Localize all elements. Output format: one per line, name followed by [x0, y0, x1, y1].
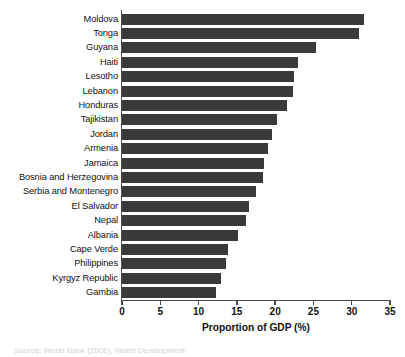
bar-row: [122, 214, 390, 228]
bar: [122, 258, 226, 269]
x-axis-tick-label: 10: [187, 306, 211, 318]
bar-row: [122, 156, 390, 170]
bar: [122, 172, 263, 183]
x-axis-tick-label: 30: [340, 306, 364, 318]
bar-row: [122, 185, 390, 199]
category-label: Lesotho: [0, 71, 118, 82]
x-axis-tick-label: 5: [148, 306, 172, 318]
category-label: Jamaica: [0, 158, 118, 169]
bar-row: [122, 127, 390, 141]
bar: [122, 86, 293, 97]
category-label: Albania: [0, 230, 118, 241]
x-axis-tick-label: 15: [225, 306, 249, 318]
category-label: Haiti: [0, 57, 118, 68]
x-axis-tick: [351, 301, 352, 305]
bar-row: [122, 12, 390, 26]
bar-row: [122, 170, 390, 184]
x-axis-tick: [160, 301, 161, 305]
category-label: Nepal: [0, 215, 118, 226]
category-label: Moldova: [0, 14, 118, 25]
bar: [122, 273, 221, 284]
x-axis-tick: [236, 301, 237, 305]
bar: [122, 42, 316, 53]
bar: [122, 143, 268, 154]
category-label: Kyrgyz Republic: [0, 273, 118, 284]
bar-row: [122, 55, 390, 69]
bar-row: [122, 142, 390, 156]
x-axis-title: Proportion of GDP (%): [122, 322, 390, 333]
bar-chart-figure: MoldovaTongaGuyanaHaitiLesothoLebanonHon…: [0, 0, 405, 357]
bar: [122, 201, 249, 212]
plot-area: [122, 12, 390, 300]
bar-row: [122, 271, 390, 285]
bar-row: [122, 70, 390, 84]
bar: [122, 158, 264, 169]
bar: [122, 28, 359, 39]
category-label: Honduras: [0, 100, 118, 111]
x-axis-tick: [313, 301, 314, 305]
y-axis-line: [121, 10, 122, 302]
bar: [122, 244, 228, 255]
category-label: Lebanon: [0, 86, 118, 97]
bar: [122, 114, 277, 125]
x-axis-tick: [121, 301, 122, 305]
source-caption: Source: World Bank (2006), World Develop…: [14, 346, 354, 357]
x-axis-tick: [198, 301, 199, 305]
category-label: Philippines: [0, 258, 118, 269]
bar-row: [122, 257, 390, 271]
x-axis-tick: [274, 301, 275, 305]
category-label: Serbia and Montenegro: [0, 186, 118, 197]
category-label: El Salvador: [0, 201, 118, 212]
bar: [122, 215, 246, 226]
bar-row: [122, 26, 390, 40]
bar: [122, 100, 287, 111]
bar-row: [122, 41, 390, 55]
category-label: Jordan: [0, 129, 118, 140]
bar: [122, 230, 238, 241]
y-axis-category-labels: MoldovaTongaGuyanaHaitiLesothoLebanonHon…: [0, 12, 118, 300]
bar-row: [122, 242, 390, 256]
bar-row: [122, 199, 390, 213]
category-label: Bosnia and Herzegovina: [0, 172, 118, 183]
x-axis-tick-label: 20: [263, 306, 287, 318]
bar-row: [122, 228, 390, 242]
bar-row: [122, 84, 390, 98]
x-axis-tick-label: 35: [378, 306, 402, 318]
bar: [122, 14, 364, 25]
x-axis-tick-label: 25: [301, 306, 325, 318]
bar: [122, 71, 294, 82]
category-label: Guyana: [0, 42, 118, 53]
category-label: Cape Verde: [0, 244, 118, 255]
category-label: Armenia: [0, 143, 118, 154]
x-axis-tick: [389, 301, 390, 305]
category-label: Tonga: [0, 28, 118, 39]
x-axis-tick-label: 0: [110, 306, 134, 318]
category-label: Tajikistan: [0, 114, 118, 125]
bar: [122, 129, 272, 140]
category-label: Gambia: [0, 287, 118, 298]
bar: [122, 57, 298, 68]
bar-row: [122, 286, 390, 300]
bar: [122, 287, 216, 298]
bar: [122, 186, 256, 197]
bar-row: [122, 113, 390, 127]
bar-row: [122, 98, 390, 112]
